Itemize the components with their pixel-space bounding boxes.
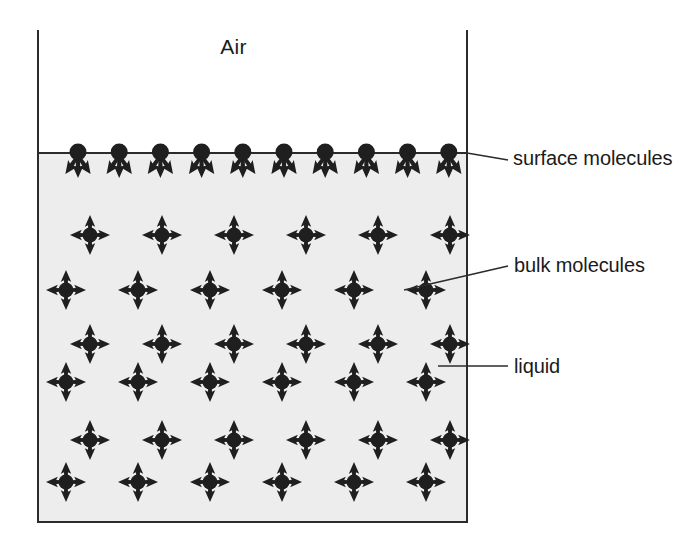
molecule-dot	[371, 228, 386, 243]
molecule-dot	[203, 375, 218, 390]
molecule-dot	[347, 375, 362, 390]
molecule-dot	[152, 144, 169, 161]
molecule-dot	[440, 144, 457, 161]
molecule-dot	[443, 228, 458, 243]
air-region-label: Air	[0, 36, 467, 57]
molecule-dot	[347, 475, 362, 490]
molecule-dot	[131, 475, 146, 490]
molecule-dot	[70, 144, 87, 161]
molecule-dot	[227, 337, 242, 352]
molecule-dot	[203, 283, 218, 298]
molecule-dot	[83, 337, 98, 352]
molecule-dot	[155, 337, 170, 352]
molecule-dot	[83, 433, 98, 448]
liquid-region	[38, 153, 467, 522]
molecule-dot	[203, 475, 218, 490]
bulk-molecules-label: bulk molecules	[514, 255, 645, 275]
molecule-dot	[131, 375, 146, 390]
molecule-dot	[275, 283, 290, 298]
molecule-dot	[419, 475, 434, 490]
surface-molecules-label: surface molecules	[513, 148, 672, 168]
molecule-dot	[193, 144, 210, 161]
molecule-dot	[227, 228, 242, 243]
molecule-dot	[371, 337, 386, 352]
molecule-dot	[371, 433, 386, 448]
molecule-dot	[59, 283, 74, 298]
molecule-dot	[111, 144, 128, 161]
molecule-dot	[419, 375, 434, 390]
molecule-dot	[299, 228, 314, 243]
molecule-dot	[299, 433, 314, 448]
molecule-dot	[358, 144, 375, 161]
molecule-dot	[275, 375, 290, 390]
molecule-dot	[275, 475, 290, 490]
molecule-dot	[59, 375, 74, 390]
molecule-dot	[443, 433, 458, 448]
molecule-dot	[317, 144, 334, 161]
leader-line-surface	[467, 153, 508, 160]
molecule-dot	[155, 228, 170, 243]
molecule-dot	[399, 144, 416, 161]
molecule-dot	[276, 144, 293, 161]
diagram-canvas: Air surface molecules bulk molecules liq…	[0, 0, 697, 540]
molecule-dot	[155, 433, 170, 448]
molecule-dot	[83, 228, 98, 243]
molecule-dot	[59, 475, 74, 490]
molecule-dot	[234, 144, 251, 161]
liquid-region-label: liquid	[514, 356, 560, 376]
molecule-dot	[131, 283, 146, 298]
molecule-dot	[443, 337, 458, 352]
molecule-dot	[227, 433, 242, 448]
molecule-dot	[347, 283, 362, 298]
molecule-dot	[299, 337, 314, 352]
